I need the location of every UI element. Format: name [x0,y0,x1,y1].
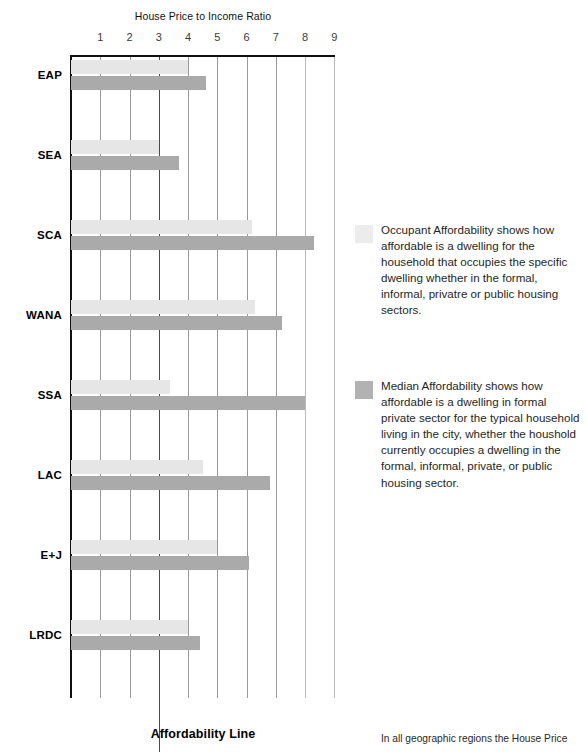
category-label-lac: LAC [0,469,62,481]
category-label-eplusj: E+J [0,549,62,561]
bar-lac-median [71,476,270,490]
bar-lac-occupant [71,460,203,474]
bar-ssa-median [71,396,305,410]
gridline-5 [217,57,218,698]
legend-swatch-median [355,381,373,399]
bar-sca-median [71,236,314,250]
bar-lrdc-median [71,636,200,650]
category-label-lrdc: LRDC [0,629,62,641]
x-tick-label-5: 5 [207,31,227,43]
gridline-8 [305,57,306,698]
bar-eplusj-occupant [71,540,217,554]
bar-lrdc-occupant [71,620,188,634]
x-axis-line [70,55,335,57]
legend-text-occupant: Occupant Affordability shows how afforda… [381,222,581,319]
chart-legend: Occupant Affordability shows how afforda… [350,0,586,751]
affordability-line-caption: Affordability Line [71,727,335,741]
x-tick-label-6: 6 [237,31,257,43]
legend-swatch-occupant [355,225,373,243]
x-tick-label-4: 4 [178,31,198,43]
bar-wana-occupant [71,300,255,314]
category-label-sca: SCA [0,229,62,241]
legend-text-median: Median Affordability shows how affordabl… [381,378,581,491]
bar-sca-occupant [71,220,252,234]
gridline-6 [247,57,248,698]
body-note-text: In all geographic regions the House Pric… [381,732,586,745]
bar-sea-median [71,156,179,170]
bar-eap-median [71,76,206,90]
chart-container: House Price to Income Ratio 123456789 Af… [0,0,350,751]
plot-area [71,57,335,698]
category-label-sea: SEA [0,149,62,161]
gridline-7 [276,57,277,698]
bar-sea-occupant [71,140,159,154]
bar-eplusj-median [71,556,249,570]
x-tick-label-1: 1 [90,31,110,43]
gridline-4 [188,57,189,698]
x-tick-label-3: 3 [149,31,169,43]
x-tick-label-7: 7 [266,31,286,43]
x-tick-label-9: 9 [324,31,344,43]
x-tick-label-8: 8 [295,31,315,43]
chart-axis-title: House Price to Income Ratio [71,10,335,22]
category-label-eap: EAP [0,69,62,81]
x-tick-label-2: 2 [120,31,140,43]
gridline-9 [334,57,335,698]
x-axis-tick-row: 123456789 [0,31,350,47]
bar-wana-median [71,316,282,330]
category-label-wana: WANA [0,309,62,321]
bar-ssa-occupant [71,380,170,394]
category-label-ssa: SSA [0,389,62,401]
bar-eap-occupant [71,60,188,74]
